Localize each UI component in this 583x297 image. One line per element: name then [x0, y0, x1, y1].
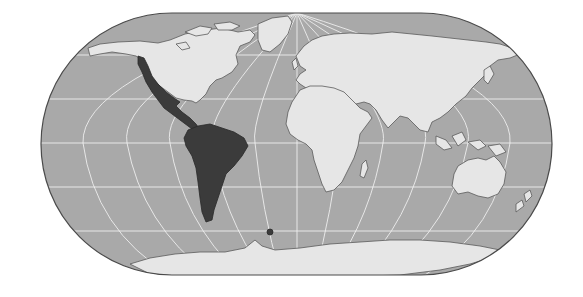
- falkland-dot: [267, 229, 273, 235]
- world-map: [0, 0, 583, 297]
